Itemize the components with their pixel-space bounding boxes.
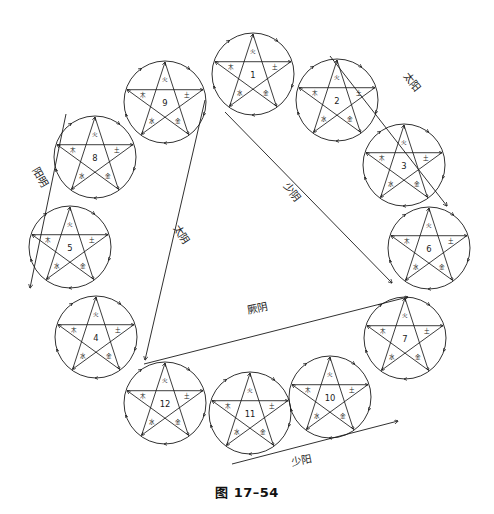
star-edge-1: [299, 88, 360, 132]
element-fire: 火: [402, 312, 408, 318]
cycle-arrow-0: [361, 66, 362, 67]
element-metal: 金: [439, 263, 445, 270]
star-edge-1: [127, 90, 188, 134]
cycle-arrow-0: [453, 214, 454, 215]
meridian-connector-lines: [30, 56, 447, 464]
meridian-yangming-line: [30, 114, 66, 288]
cycle-arrow-0: [429, 304, 430, 305]
star-edge-3: [227, 401, 288, 445]
star-edge-1: [127, 391, 188, 435]
figure-root: 火土金水木1火土金水木2火土金水木3火土金水木4火土金水木5火土金水木6火土金水…: [0, 0, 494, 514]
element-wood: 木: [71, 326, 77, 334]
meridian-shaoyin-label: 少阴: [281, 180, 303, 203]
element-water: 水: [149, 117, 155, 124]
cycle-arrow-4: [380, 304, 381, 305]
element-fire: 火: [426, 222, 432, 228]
star-edge-3: [381, 153, 442, 197]
circle-7-number: 7: [402, 334, 407, 344]
cycle-arrow-4: [140, 369, 141, 370]
element-wood: 木: [70, 146, 76, 154]
star-edge-3: [72, 145, 133, 189]
element-metal: 金: [414, 180, 420, 187]
element-wood: 木: [380, 327, 386, 335]
circle-4-number: 4: [93, 333, 98, 343]
figure-caption: 图 17–54: [0, 482, 494, 501]
element-fire: 火: [162, 377, 168, 383]
element-earth: 土: [115, 326, 121, 333]
cycle-arrow-4: [404, 214, 405, 215]
element-earth: 土: [89, 236, 95, 243]
circle-9-number: 9: [162, 98, 167, 108]
cycle-arrow-0: [428, 131, 429, 132]
element-earth: 土: [184, 392, 190, 399]
meridian-jueyin-line: [144, 297, 408, 364]
element-wood: 木: [379, 154, 385, 162]
meridian-shaoyang-label: 少阳: [290, 452, 312, 468]
element-metal: 金: [415, 353, 421, 360]
circle-5: 火土金水木5: [29, 206, 111, 288]
wuxing-circles-layer: 火土金水木1火土金水木2火土金水木3火土金水木4火土金水木5火土金水木6火土金水…: [29, 33, 470, 454]
circle-2-number: 2: [334, 96, 339, 106]
element-metal: 金: [105, 172, 111, 179]
star-edge-1: [58, 325, 119, 369]
element-earth: 土: [114, 146, 120, 153]
element-water: 水: [388, 180, 394, 187]
circle-9: 火土金水木9: [124, 61, 206, 143]
star-edge-3: [307, 385, 368, 429]
star-edge-3: [406, 236, 467, 280]
element-fire: 火: [92, 131, 98, 137]
element-wood: 木: [404, 237, 410, 245]
element-fire: 火: [334, 74, 340, 80]
star-edge-1: [292, 385, 353, 429]
cycle-arrow-4: [140, 68, 141, 69]
circle-2: 火土金水木2: [296, 59, 378, 141]
element-metal: 金: [175, 117, 181, 124]
circle-11-number: 11: [245, 409, 256, 419]
cycle-arrow-4: [70, 123, 71, 124]
element-fire: 火: [247, 387, 253, 393]
cycle-arrow-4: [305, 363, 306, 364]
element-earth: 土: [356, 89, 362, 96]
circle-8: 火土金水木8: [54, 116, 136, 198]
star-edge-3: [382, 326, 443, 370]
circle-5-number: 5: [67, 243, 72, 253]
element-earth: 土: [448, 237, 454, 244]
star-edge-1: [391, 236, 452, 280]
element-fire: 火: [250, 48, 256, 54]
meridian-yangming-label: 阳明: [30, 165, 50, 188]
element-metal: 金: [263, 89, 269, 96]
star-edge-3: [230, 62, 291, 106]
element-wood: 木: [140, 392, 146, 400]
circle-6: 火土金水木6: [388, 207, 470, 289]
element-earth: 土: [424, 327, 430, 334]
element-water: 水: [80, 352, 86, 359]
meridian-shaoyin-line: [225, 112, 392, 283]
cycle-arrow-4: [45, 213, 46, 214]
element-wood: 木: [45, 236, 51, 244]
circle-3: 火土金水木3: [363, 124, 445, 206]
cycle-arrow-0: [119, 123, 120, 124]
element-fire: 火: [93, 311, 99, 317]
element-fire: 火: [401, 139, 407, 145]
element-water: 水: [321, 115, 327, 122]
element-fire: 火: [327, 371, 333, 377]
element-wood: 木: [140, 91, 146, 99]
element-earth: 土: [272, 63, 278, 70]
element-earth: 土: [423, 154, 429, 161]
circle-11: 火土金水木11: [209, 372, 291, 454]
cycle-arrow-0: [274, 379, 275, 380]
cycle-arrow-0: [354, 363, 355, 364]
element-wood: 木: [228, 63, 234, 71]
star-edge-3: [314, 88, 375, 132]
meridian-taiyang-label: 太阳: [401, 70, 423, 93]
cycle-arrow-0: [189, 68, 190, 69]
cycle-arrow-4: [225, 379, 226, 380]
star-edge-1: [57, 145, 118, 189]
element-metal: 金: [106, 352, 112, 359]
element-metal: 金: [80, 262, 86, 269]
element-wood: 木: [305, 386, 311, 394]
element-water: 水: [149, 418, 155, 425]
element-water: 水: [234, 428, 240, 435]
star-edge-1: [215, 62, 276, 106]
star-edge-1: [212, 401, 273, 445]
